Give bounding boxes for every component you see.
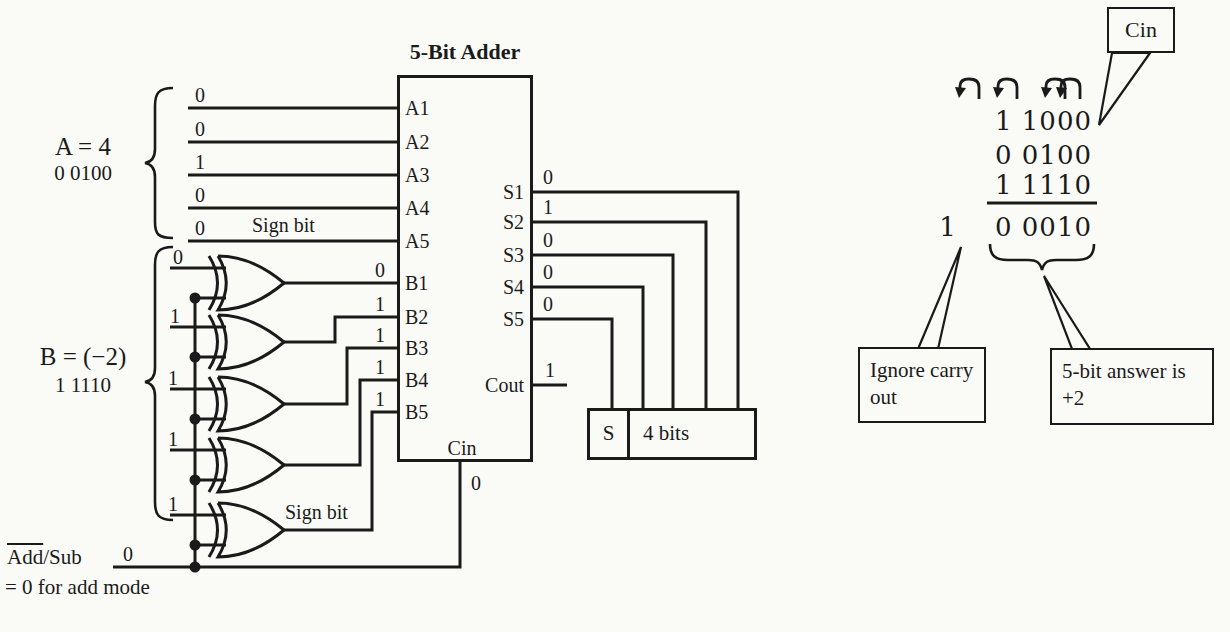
carry-out-digit: 1 <box>938 212 958 242</box>
port-label-b3: B3 <box>405 336 428 360</box>
result-box-bits-cell: 4 bits <box>643 422 689 444</box>
port-label-b2: B2 <box>405 305 428 329</box>
ignore-carry-note-box: Ignore carry out <box>858 347 986 423</box>
xor-out-1: 0 <box>368 259 392 281</box>
port-label-b5: B5 <box>405 400 428 424</box>
xor-gate-4 <box>209 438 284 492</box>
cin-callout-wedge <box>1099 53 1150 125</box>
xor-out-4: 1 <box>368 356 392 378</box>
port-label-b4: B4 <box>405 368 428 392</box>
a-bit-2: 0 <box>188 118 212 140</box>
b-bit-4: 1 <box>161 428 185 450</box>
port-label-a4: A4 <box>405 196 429 220</box>
brace-a <box>145 88 173 238</box>
callout-wedges <box>918 53 1150 349</box>
ignore-callout-wedge <box>918 247 961 349</box>
result-underbrace <box>990 244 1094 270</box>
s4-value: 0 <box>536 261 560 283</box>
answer-note-box: 5-bit answer is +2 <box>1050 348 1214 425</box>
port-label-cin: Cin <box>432 436 492 460</box>
b-bit-3: 1 <box>161 367 185 389</box>
operand-b-row: 1 1110 <box>982 170 1092 200</box>
port-label-b1: B1 <box>405 271 428 295</box>
port-label-a1: A1 <box>405 96 429 120</box>
port-label-s5: S5 <box>490 307 524 331</box>
a-bit-5: 0 <box>188 217 212 239</box>
port-label-s4: S4 <box>490 275 524 299</box>
port-label-s3: S3 <box>490 243 524 267</box>
result-register-box: S 4 bits <box>587 408 757 460</box>
sign-bit-label-a: Sign bit <box>252 214 315 236</box>
port-label-a3: A3 <box>405 163 429 187</box>
xor-gate-3 <box>209 377 284 431</box>
port-label-a5: A5 <box>405 229 429 253</box>
worked-example-artwork <box>918 53 1150 349</box>
addsub-label: Add/Sub <box>7 546 82 568</box>
a-bit-4: 0 <box>188 184 212 206</box>
cout-value: 1 <box>538 359 562 381</box>
carry-arrow-heads <box>955 87 1067 98</box>
xor-gate-2 <box>209 315 284 369</box>
xor-out-3: 1 <box>368 324 392 346</box>
a-bit-3: 1 <box>188 151 212 173</box>
xor-out-5: 1 <box>368 388 392 410</box>
xor-gate-1 <box>209 256 284 310</box>
port-label-a2: A2 <box>405 130 429 154</box>
port-label-s2: S2 <box>490 210 524 234</box>
addsub-value: 0 <box>116 543 140 565</box>
addsub-overline: Add <box>7 545 43 569</box>
port-label-s1: S1 <box>490 180 524 204</box>
input-a-binary: 0 0100 <box>28 162 138 184</box>
answer-callout-wedge <box>1044 276 1090 349</box>
b-bit-5: 1 <box>161 493 185 515</box>
carry-row: 1 1000 <box>982 106 1092 136</box>
xor-gates <box>209 256 284 557</box>
b-bit-1: 0 <box>166 246 190 268</box>
result-row: 0 0010 <box>982 212 1092 242</box>
a-bit-1: 0 <box>188 84 212 106</box>
cin-callout-box: Cin <box>1107 7 1175 53</box>
sign-bit-label-b: Sign bit <box>285 501 348 523</box>
figure-page: 5-Bit Adder A1 A2 A3 A4 A5 B1 B2 B3 B4 B… <box>0 0 1230 632</box>
result-box-divider <box>627 411 630 457</box>
result-box-sign-cell: S <box>590 422 627 444</box>
s3-value: 0 <box>536 229 560 251</box>
port-label-cout: Cout <box>458 373 524 397</box>
input-a-label: A = 4 <box>28 134 138 160</box>
xor-gate-5 <box>209 503 284 557</box>
s2-value: 1 <box>536 196 560 218</box>
braces <box>145 88 173 520</box>
input-b-binary: 1 1110 <box>23 374 143 396</box>
s5-value: 0 <box>536 293 560 315</box>
b-bit-2: 1 <box>163 305 187 327</box>
addsub-note: = 0 for add mode <box>5 576 150 598</box>
operand-a-row: 0 0100 <box>982 140 1092 170</box>
cin-value: 0 <box>464 472 488 494</box>
s1-value: 0 <box>536 166 560 188</box>
xor-out-2: 1 <box>368 293 392 315</box>
input-b-label: B = (−2) <box>23 344 143 370</box>
addsub-rest: /Sub <box>43 545 82 569</box>
adder-title: 5-Bit Adder <box>390 40 540 64</box>
